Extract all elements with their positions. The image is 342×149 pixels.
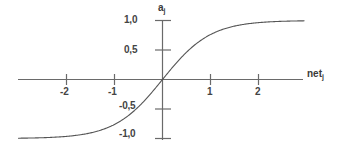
y-axis-title: aj (158, 2, 166, 13)
plot-canvas (0, 0, 342, 149)
x-axis-title: netj (307, 68, 324, 79)
y-tick-label-neg0-5: -0,5 (119, 100, 135, 111)
y-axis-title-subscript: j (164, 7, 166, 14)
x-tick-label-neg2: -2 (60, 86, 69, 97)
y-tick-label-0-5: 0,5 (124, 44, 137, 55)
x-tick-label-pos1: 1 (207, 86, 212, 97)
y-axis-title-base: a (158, 2, 164, 13)
y-tick-label-neg1-0: -1,0 (119, 128, 135, 139)
chart-figure: 1,0 0,5 -0,5 -1,0 -2 -1 1 2 netj aj (0, 0, 342, 149)
x-axis-title-base: net (307, 68, 322, 79)
y-tick-label-1-0: 1,0 (124, 14, 137, 25)
x-axis-title-subscript: j (322, 73, 324, 80)
x-tick-label-neg1: -1 (108, 86, 117, 97)
x-tick-label-pos2: 2 (255, 86, 260, 97)
